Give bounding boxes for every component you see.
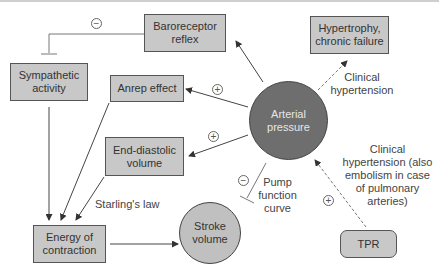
label-starlings-law: Starling's law (95, 198, 170, 211)
node-energy-of-contraction: Energy of contraction (33, 225, 106, 263)
node-arterial-pressure: Arterial pressure (249, 81, 328, 160)
plus-sign-edv: + (208, 131, 219, 142)
label-clinical-hypertension-top: Clinical hypertension (327, 71, 397, 97)
node-anrep-effect: Anrep effect (110, 75, 184, 102)
node-stroke-volume: Stroke volume (179, 202, 241, 264)
plus-sign-anrep: + (212, 84, 223, 95)
node-end-diastolic-volume: End-diastolic volume (105, 137, 184, 176)
node-hypertrophy: Hypertrophy, chronic failure (310, 16, 389, 54)
node-baroreceptor-reflex: Baroreceptor reflex (144, 14, 226, 52)
node-sympathetic-activity: Sympathetic activity (10, 63, 88, 101)
plus-sign-tpr: + (323, 195, 334, 206)
label-pump-function-curve: Pump function curve (255, 176, 300, 215)
node-tpr: TPR (340, 230, 397, 258)
label-clinical-hypertension-right: Clinical hypertension (also embolism in … (340, 143, 435, 208)
minus-sign-pump: − (238, 175, 249, 186)
minus-sign-baroreflex: − (91, 18, 102, 29)
